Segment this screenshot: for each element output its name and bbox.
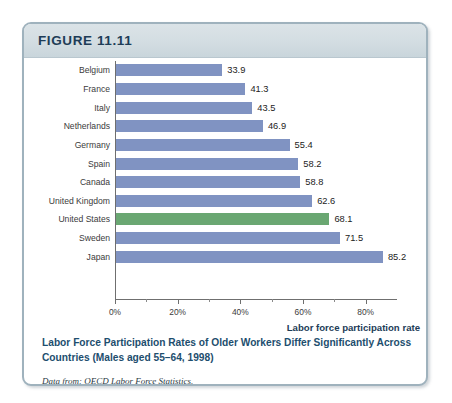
x-axis-tick-label: 80%: [357, 307, 374, 317]
bar-category-label: Italy: [24, 103, 110, 113]
x-axis-line: [115, 299, 397, 300]
bar: [116, 195, 312, 207]
caption-title: Labor Force Participation Rates of Older…: [42, 336, 414, 365]
bar-category-label: France: [24, 84, 110, 94]
figure-header-band: FIGURE 11.11: [24, 24, 426, 58]
bar-value-label: 62.6: [317, 196, 335, 206]
bar-row: Spain58.2: [24, 154, 428, 173]
bar-row: Italy43.5: [24, 98, 428, 117]
bar-row: Sweden71.5: [24, 229, 428, 248]
x-axis-tick: [115, 299, 116, 304]
bar-category-label: Japan: [24, 252, 110, 262]
bar-value-label: 43.5: [257, 103, 275, 113]
bar-value-label: 33.9: [227, 65, 245, 75]
figure-number-label: FIGURE 11.11: [38, 33, 132, 48]
x-axis-tick: [240, 299, 241, 304]
bar-value-label: 46.9: [268, 121, 286, 131]
bar-category-label: Spain: [24, 159, 110, 169]
x-axis-minor-tick: [146, 299, 147, 302]
bar: [116, 176, 300, 188]
x-axis-title: Labor force participation rate: [24, 322, 420, 333]
bar-row: France41.3: [24, 80, 428, 99]
bar-row: United Kingdom62.6: [24, 191, 428, 210]
bar: [116, 158, 298, 170]
bar: [116, 120, 263, 132]
bar-category-label: United Kingdom: [24, 196, 110, 206]
bar-category-label: Belgium: [24, 65, 110, 75]
bar: [116, 64, 222, 76]
x-axis-minor-tick: [272, 299, 273, 302]
x-axis-minor-tick: [334, 299, 335, 302]
x-axis-tick: [366, 299, 367, 304]
bar: [116, 102, 252, 114]
bar-row: Canada58.8: [24, 173, 428, 192]
bar-category-label: Sweden: [24, 233, 110, 243]
bar-row: Japan85.2: [24, 247, 428, 266]
bar-row: Netherlands46.9: [24, 117, 428, 136]
x-axis-tick: [178, 299, 179, 304]
bar-row: Germany55.4: [24, 136, 428, 155]
x-axis-minor-tick: [209, 299, 210, 302]
bar-value-label: 58.2: [303, 159, 321, 169]
x-axis-tick-label: 0%: [109, 307, 121, 317]
bar: [116, 232, 340, 244]
bar-category-label: Netherlands: [24, 121, 110, 131]
x-axis-tick: [303, 299, 304, 304]
x-axis-tick-label: 40%: [232, 307, 249, 317]
bar-value-label: 41.3: [250, 84, 268, 94]
bar-row: United States68.1: [24, 210, 428, 229]
figure-frame: FIGURE 11.11 Belgium33.9France41.3Italy4…: [22, 22, 428, 386]
bar-highlighted: [116, 213, 329, 225]
bar: [116, 251, 383, 263]
bar-category-label: United States: [24, 214, 110, 224]
figure-caption-block: Labor Force Participation Rates of Older…: [42, 336, 414, 386]
bar-chart-plot-area: Belgium33.9France41.3Italy43.5Netherland…: [24, 58, 428, 316]
bar-value-label: 85.2: [388, 252, 406, 262]
x-axis-tick-label: 20%: [169, 307, 186, 317]
bar-row: Belgium33.9: [24, 61, 428, 80]
bar-value-label: 68.1: [334, 214, 352, 224]
bar-value-label: 55.4: [295, 140, 313, 150]
caption-source: Data from: OECD Labor Force Statistics.: [42, 376, 414, 386]
bar: [116, 139, 290, 151]
bar: [116, 83, 245, 95]
bar-category-label: Germany: [24, 140, 110, 150]
bar-value-label: 58.8: [305, 177, 323, 187]
x-axis-tick-label: 60%: [295, 307, 312, 317]
bar-value-label: 71.5: [345, 233, 363, 243]
bar-category-label: Canada: [24, 177, 110, 187]
